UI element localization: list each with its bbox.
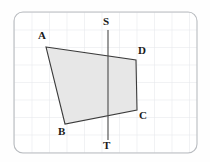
vertex-label-d: D	[138, 45, 146, 56]
vertex-label-c: C	[139, 110, 147, 121]
endpoint-label-t: T	[103, 140, 111, 151]
vertex-label-b: B	[58, 126, 66, 137]
endpoint-label-s: S	[103, 16, 109, 27]
geometry-figure: A S D C B T	[0, 0, 210, 162]
vertex-label-a: A	[38, 30, 46, 41]
